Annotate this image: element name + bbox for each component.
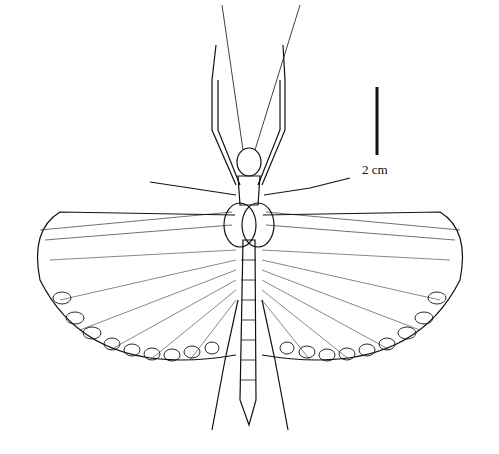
insect-drawing [0, 0, 499, 454]
scale-bar-label: 2 cm [362, 162, 388, 178]
